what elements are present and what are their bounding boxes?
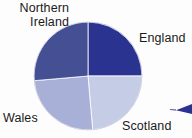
left-arrow-icon	[170, 101, 192, 118]
pie-label-scotland: Scotland	[122, 120, 171, 134]
pie-label-wales: Wales	[3, 112, 38, 126]
pie-slice-wales[interactable]	[34, 76, 92, 130]
pie-chart	[33, 21, 143, 131]
pie-label-england: England	[139, 32, 186, 46]
pie-chart-figure: Northern Ireland England Wales Scotland	[0, 0, 192, 138]
pie-slice-england[interactable]	[88, 22, 142, 76]
pie-chart-svg	[33, 21, 143, 131]
pie-slice-northern-ireland[interactable]	[34, 22, 88, 81]
pie-label-northern-ireland: Northern Ireland	[1, 2, 69, 29]
